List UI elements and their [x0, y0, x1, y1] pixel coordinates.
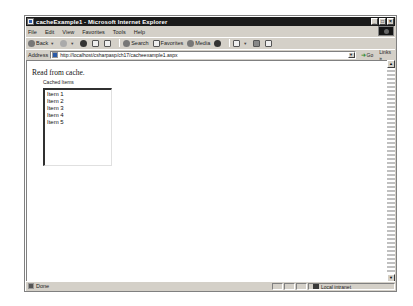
menu-file[interactable]: File: [28, 29, 37, 35]
mail-dropdown-icon[interactable]: ▼: [243, 41, 247, 46]
toolbar-separator: [119, 39, 120, 47]
menu-edit[interactable]: Edit: [45, 29, 54, 35]
title-bar[interactable]: cacheExample1 - Microsoft Internet Explo…: [26, 17, 395, 26]
stop-button[interactable]: [80, 40, 88, 47]
status-bar: Done Local intranet: [26, 281, 395, 290]
mail-icon: [233, 40, 240, 47]
address-input[interactable]: http://localhost/csharpasp/ch17/cacheexa…: [50, 51, 355, 59]
ie-app-icon: [27, 18, 34, 25]
list-item[interactable]: Item 2: [47, 98, 109, 105]
intranet-icon: [313, 284, 319, 289]
search-label: Search: [131, 40, 148, 46]
address-url[interactable]: http://localhost/csharpasp/ch17/cacheexa…: [60, 52, 177, 58]
browser-window: cacheExample1 - Microsoft Internet Explo…: [24, 15, 397, 292]
minimize-button[interactable]: _: [371, 18, 378, 25]
menu-help[interactable]: Help: [134, 29, 145, 35]
zone-label: Local intranet: [321, 284, 351, 290]
media-label: Media: [195, 40, 210, 46]
address-dropdown-button[interactable]: ▼: [348, 52, 355, 58]
menu-tools[interactable]: Tools: [113, 29, 126, 35]
page-heading: Read from cache.: [32, 68, 85, 77]
window-title: cacheExample1 - Microsoft Internet Explo…: [36, 19, 167, 25]
list-item[interactable]: Item 3: [47, 105, 109, 112]
mail-button[interactable]: ▼: [233, 40, 249, 47]
status-panel: [284, 283, 295, 290]
menu-favorites[interactable]: Favorites: [82, 29, 105, 35]
edit-icon: [265, 40, 272, 47]
refresh-button[interactable]: [92, 40, 100, 47]
close-button[interactable]: ×: [387, 18, 394, 25]
refresh-icon: [92, 40, 99, 47]
go-label: Go: [367, 52, 374, 58]
links-button[interactable]: Links »: [379, 49, 395, 61]
media-button[interactable]: Media: [187, 40, 210, 47]
cached-items-label: Cached Items: [43, 79, 74, 85]
list-item[interactable]: Item 4: [47, 112, 109, 119]
stop-icon: [80, 40, 87, 47]
print-button[interactable]: [253, 40, 261, 47]
list-item[interactable]: Item 1: [47, 91, 109, 98]
status-panel: [296, 283, 307, 290]
page-content: Read from cache. Cached Items Item 1 Ite…: [26, 60, 388, 282]
media-icon: [187, 40, 194, 47]
address-label: Address: [28, 52, 48, 58]
page-done-icon: [28, 283, 34, 289]
menu-view[interactable]: View: [62, 29, 74, 35]
status-text: Done: [36, 283, 49, 289]
vertical-scrollbar[interactable]: ▲ ▼: [387, 60, 395, 282]
home-icon: [104, 40, 111, 47]
security-zone: Local intranet: [308, 283, 395, 290]
history-icon: [214, 40, 221, 47]
back-label: Back: [36, 40, 48, 46]
print-icon: [253, 40, 260, 47]
back-arrow-icon: [28, 40, 35, 47]
cached-items-listbox[interactable]: Item 1 Item 2 Item 3 Item 4 Item 5: [43, 88, 112, 166]
history-button[interactable]: [214, 40, 222, 47]
toolbar-separator: [229, 39, 230, 47]
forward-button[interactable]: ▼: [60, 40, 76, 47]
ie-throbber-logo: [378, 26, 394, 36]
standard-toolbar: Back ▼ ▼ Search Favorites Media: [26, 37, 395, 48]
back-button[interactable]: Back ▼: [28, 40, 56, 47]
go-arrow-icon: ➜: [361, 51, 366, 58]
search-button[interactable]: Search: [123, 40, 148, 47]
status-panel: [272, 283, 283, 290]
favorites-button[interactable]: Favorites: [153, 40, 184, 47]
forward-arrow-icon: [60, 40, 67, 47]
page-icon: [52, 52, 58, 58]
back-dropdown-icon[interactable]: ▼: [50, 41, 54, 46]
window-controls: _ □ ×: [371, 18, 394, 25]
maximize-button[interactable]: □: [379, 18, 386, 25]
forward-dropdown-icon[interactable]: ▼: [70, 41, 74, 46]
favorites-label: Favorites: [161, 40, 184, 46]
address-bar: Address http://localhost/csharpasp/ch17/…: [26, 49, 395, 59]
favorites-icon: [153, 40, 160, 47]
list-item[interactable]: Item 5: [47, 119, 109, 126]
go-button[interactable]: ➜ Go: [361, 51, 374, 58]
edit-button[interactable]: [265, 40, 273, 47]
status-panels: [272, 283, 308, 290]
menu-bar: File Edit View Favorites Tools Help: [26, 27, 395, 36]
home-button[interactable]: [104, 40, 112, 47]
search-icon: [123, 40, 130, 47]
scroll-up-button[interactable]: ▲: [387, 60, 395, 68]
